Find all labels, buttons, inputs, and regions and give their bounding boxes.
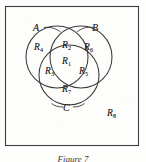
region-label-r6-base: R — [84, 42, 90, 52]
region-label-r8-base: R — [107, 108, 113, 118]
region-label-r2-subscript: 2 — [68, 44, 71, 51]
region-label-r6: R6 — [84, 43, 93, 53]
region-label-r1-base: R — [62, 56, 68, 66]
set-circle-a — [26, 26, 88, 88]
set-label-b: B — [92, 23, 98, 33]
region-label-r2: R2 — [62, 41, 71, 51]
region-label-r2-base: R — [62, 40, 68, 50]
region-label-r3-base: R — [45, 66, 51, 76]
venn-diagram-graphic — [0, 0, 146, 162]
region-label-r8-subscript: 8 — [113, 112, 116, 119]
region-label-r7-subscript: 7 — [68, 88, 71, 95]
region-label-r7: R7 — [62, 85, 71, 95]
region-label-r4-subscript: 4 — [40, 46, 43, 53]
region-label-r5-subscript: 5 — [85, 70, 88, 77]
set-circle-b — [50, 26, 112, 88]
set-label-a: A — [33, 23, 39, 33]
figure-caption: Figure 7 — [0, 154, 146, 162]
region-label-r1: R1 — [62, 57, 71, 67]
region-label-r5: R5 — [79, 67, 88, 77]
region-label-r8: R8 — [107, 109, 116, 119]
region-label-r6-subscript: 6 — [90, 46, 93, 53]
region-label-r4: R4 — [34, 43, 43, 53]
region-label-r3: R3 — [45, 67, 54, 77]
region-label-r3-subscript: 3 — [51, 70, 54, 77]
region-label-r7-base: R — [62, 84, 68, 94]
figure-container: A B C R1 R2 R3 R4 R5 R6 R7 R8 Figure 7 — [0, 0, 146, 162]
set-label-c: C — [63, 103, 70, 113]
region-label-r5-base: R — [79, 66, 85, 76]
region-label-r1-subscript: 1 — [68, 60, 71, 67]
region-label-r4-base: R — [34, 42, 40, 52]
